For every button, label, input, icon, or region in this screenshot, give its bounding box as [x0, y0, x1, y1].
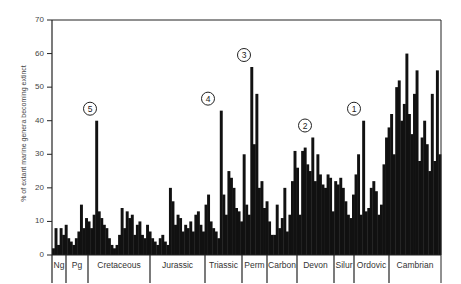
bar: [182, 232, 185, 256]
bar: [260, 181, 263, 255]
bar: [248, 215, 251, 255]
bar: [83, 228, 86, 255]
svg-text:5: 5: [88, 104, 93, 114]
bar: [349, 218, 352, 255]
bar: [55, 228, 58, 255]
bar: [65, 225, 68, 255]
bar: [194, 215, 197, 255]
bar: [154, 242, 157, 255]
bar: [433, 161, 436, 255]
bar: [255, 94, 258, 255]
bar: [75, 238, 78, 255]
bar: [339, 178, 342, 255]
bar: [141, 235, 144, 255]
bar: [306, 164, 309, 255]
bar: [395, 87, 398, 255]
svg-text:2: 2: [303, 121, 308, 131]
bar: [352, 195, 355, 255]
bar: [324, 188, 327, 255]
bar: [177, 215, 180, 255]
period-label-devon: Devon: [297, 260, 334, 270]
bar: [113, 248, 116, 255]
bar: [299, 215, 302, 255]
y-tick-label: 30: [22, 149, 44, 158]
bar: [166, 245, 169, 255]
bar: [296, 168, 299, 255]
bar: [357, 154, 360, 255]
bar: [67, 238, 70, 255]
bar: [344, 201, 347, 255]
bar: [222, 195, 225, 255]
bar: [62, 235, 65, 255]
bar: [304, 148, 307, 255]
bar: [316, 154, 319, 255]
bar: [405, 54, 408, 255]
y-tick-label: 20: [22, 183, 44, 192]
bar: [215, 232, 218, 256]
bar: [294, 151, 297, 255]
bar: [57, 245, 60, 255]
bar: [205, 205, 208, 255]
y-tick-label: 10: [22, 216, 44, 225]
bar: [342, 188, 345, 255]
bar: [217, 238, 220, 255]
bar: [431, 94, 434, 255]
bar: [95, 121, 98, 255]
bar: [375, 191, 378, 255]
bar: [146, 225, 149, 255]
bar: [164, 242, 167, 255]
bar: [355, 174, 358, 255]
bar: [322, 185, 325, 256]
period-label-triassic: Triassic: [205, 260, 242, 270]
bar: [276, 205, 279, 255]
bar: [197, 211, 200, 255]
bar: [108, 238, 111, 255]
bar: [329, 178, 332, 255]
bar: [220, 111, 223, 255]
bar: [383, 164, 386, 255]
period-label-ng: Ng: [52, 260, 66, 270]
bar: [235, 208, 238, 255]
bar: [207, 195, 210, 255]
bar: [283, 188, 286, 255]
bar: [110, 245, 113, 255]
bar: [377, 215, 380, 255]
bar: [169, 188, 172, 255]
bar: [161, 235, 164, 255]
bar: [210, 221, 213, 255]
bar: [118, 235, 121, 255]
bar: [98, 211, 101, 255]
bar: [60, 228, 63, 255]
bar: [314, 181, 317, 255]
svg-text:3: 3: [242, 50, 247, 60]
svg-text:1: 1: [352, 104, 357, 114]
bar: [263, 208, 266, 255]
bar: [189, 221, 192, 255]
period-label-carbon: Carbon: [267, 260, 297, 270]
bar: [372, 181, 375, 255]
period-label-silur: Silur: [334, 260, 354, 270]
y-tick-label: 70: [22, 15, 44, 24]
y-tick-label: 0: [22, 250, 44, 259]
bar: [103, 225, 106, 255]
bar: [77, 232, 80, 256]
svg-text:4: 4: [206, 94, 211, 104]
bar: [199, 225, 202, 255]
bar: [250, 67, 253, 255]
bar: [123, 228, 126, 255]
bar: [202, 232, 205, 256]
bar: [400, 121, 403, 255]
bar: [126, 211, 129, 255]
bar: [403, 104, 406, 255]
bar: [240, 221, 243, 255]
bar: [133, 235, 136, 255]
bar: [408, 114, 411, 255]
bar: [426, 144, 429, 255]
bar: [388, 127, 391, 255]
bar: [187, 228, 190, 255]
bar: [230, 178, 233, 255]
bar: [327, 174, 330, 255]
bar: [418, 161, 421, 255]
bar: [266, 201, 269, 255]
bar: [128, 218, 131, 255]
